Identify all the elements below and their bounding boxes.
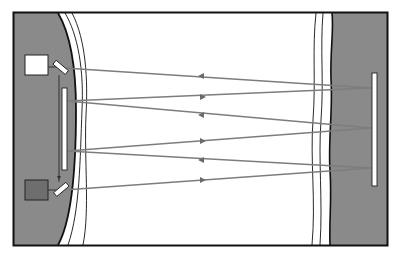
multipass-cell-diagram — [0, 0, 401, 258]
right-window-line-2 — [320, 13, 323, 245]
arrow-right-icon — [200, 177, 206, 183]
right-window-line-1 — [312, 13, 316, 245]
left-mirror — [62, 88, 67, 170]
arrow-right-icon — [200, 138, 206, 144]
source-box — [25, 55, 48, 75]
ray-arrows — [198, 73, 206, 183]
right-mirror — [372, 73, 377, 186]
arrow-left-icon — [198, 73, 204, 79]
light-rays — [64, 68, 371, 190]
detector-box — [25, 180, 48, 200]
